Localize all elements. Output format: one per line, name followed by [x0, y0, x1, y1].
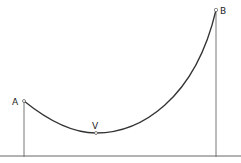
- point-a-marker: [23, 100, 26, 103]
- label-b: B: [220, 6, 226, 16]
- point-b-marker: [214, 8, 217, 11]
- cable-curve: [24, 10, 216, 133]
- label-v: V: [92, 121, 99, 131]
- point-v-marker: [95, 132, 98, 135]
- label-a: A: [12, 97, 19, 107]
- cable-diagram: A V B: [0, 0, 241, 163]
